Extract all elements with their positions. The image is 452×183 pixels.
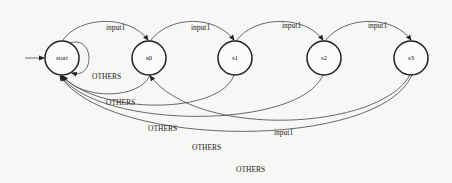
node-label-s0: s0: [146, 54, 153, 62]
node-label-s1: s1: [232, 54, 239, 62]
edge-label-s1-s2: input1: [282, 21, 301, 30]
node-s0[interactable]: s0: [132, 41, 166, 75]
edge-s3-s0: [150, 75, 410, 120]
node-s2[interactable]: s2: [307, 41, 341, 75]
node-s1[interactable]: s1: [218, 41, 252, 75]
node-label-start: start: [56, 54, 68, 62]
edge-label-s2-s3: input1: [368, 21, 387, 30]
edge-s1-s2: [236, 21, 323, 41]
edge-label-s0-s1: input1: [191, 23, 210, 32]
node-s3[interactable]: s3: [394, 41, 428, 75]
state-diagram: start s0 s1 s2 s3 input1 input1 input1 i…: [0, 0, 452, 183]
edge-label-s0-start: OTHERS: [106, 98, 135, 107]
edge-label-s1-start: OTHERS: [148, 124, 177, 133]
edge-s2-start: [61, 75, 323, 116]
node-label-s2: s2: [321, 54, 328, 62]
edge-label-s3-start: OTHERS: [236, 165, 265, 174]
node-label-s3: s3: [408, 54, 415, 62]
edge-start-s0: [62, 21, 148, 41]
node-start[interactable]: start: [45, 41, 79, 75]
edge-label-start-s0: input1: [106, 23, 125, 32]
edge-label-self: OTHERS: [92, 72, 121, 81]
edge-label-s3-s0: input1: [274, 128, 293, 137]
edge-label-s2-start: OTHERS: [192, 143, 221, 152]
